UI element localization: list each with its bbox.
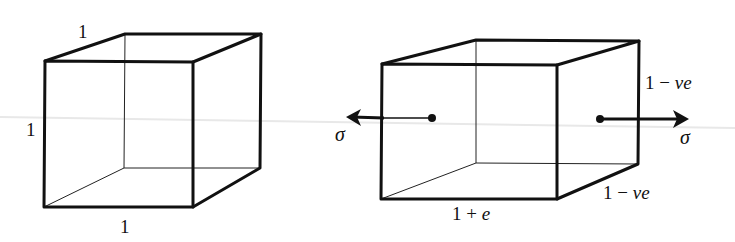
hidden-edge-depth (44, 168, 124, 207)
stress-symbol-left: σ (335, 124, 345, 144)
edge-label-length: 1 + e (452, 204, 490, 223)
front-face (381, 64, 557, 199)
edge-label-height: 1 (26, 120, 36, 139)
diagram-canvas (0, 0, 735, 242)
figure: 1 1 1 1 − νe 1 − νe 1 + e σ σ (0, 0, 735, 242)
edge-label-depth: 1 − νe (603, 183, 650, 202)
label-text: 1 − νe (603, 182, 650, 203)
edge-label-width: 1 (120, 217, 130, 236)
edge-label-depth: 1 (78, 22, 88, 41)
edge-label-height: 1 − νe (645, 73, 692, 92)
label-text: 1 − νe (645, 72, 692, 93)
hidden-edge-depth (381, 163, 476, 199)
front-face (44, 61, 193, 207)
hidden-edge-vertical (124, 34, 125, 168)
top-face (382, 40, 639, 65)
stress-symbol-right: σ (680, 127, 690, 147)
